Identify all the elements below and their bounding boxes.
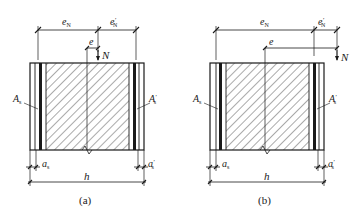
label-As-prime: A′s — [328, 93, 337, 105]
label-N: N — [340, 51, 349, 63]
label-as: as — [222, 158, 230, 170]
hatched-core — [46, 63, 129, 150]
label-as-prime: a′s — [148, 158, 155, 170]
label-as: as — [42, 158, 50, 170]
eccentric-tension-diagram: eN e′N e N As A′s as a′s h — [0, 0, 359, 219]
label-h: h — [264, 170, 270, 182]
label-e: e — [269, 36, 274, 47]
caption-b: (b) — [258, 194, 271, 207]
label-eN-prime: e′N — [318, 16, 326, 28]
label-N: N — [101, 49, 110, 61]
label-As: As — [12, 93, 22, 105]
label-eN-prime: e′N — [110, 16, 118, 28]
rebar-As — [219, 63, 222, 150]
label-As: As — [192, 93, 202, 105]
label-h: h — [84, 170, 90, 182]
rebar-As — [39, 63, 42, 150]
label-eN: eN — [260, 16, 269, 28]
label-e: e — [89, 36, 94, 47]
label-eN: eN — [62, 16, 71, 28]
panel-b: eN e′N e N As A′s as a′s h — [192, 16, 349, 207]
figure-canvas: eN e′N e N As A′s as a′s h — [0, 0, 359, 219]
hatched-core — [226, 63, 309, 150]
panel-a: eN e′N e N As A′s as a′s h — [12, 16, 157, 207]
label-as-prime: a′s — [328, 158, 335, 170]
rebar-As-prime — [133, 63, 136, 150]
rebar-As-prime — [313, 63, 316, 150]
label-As-prime: A′s — [148, 93, 157, 105]
caption-a: (a) — [79, 194, 92, 207]
